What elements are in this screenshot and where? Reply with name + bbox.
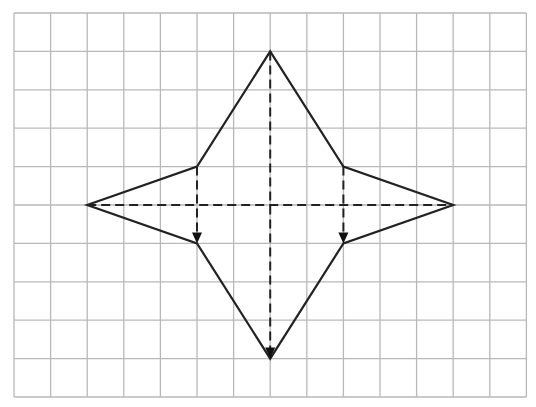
star-grid-diagram [0,0,536,407]
